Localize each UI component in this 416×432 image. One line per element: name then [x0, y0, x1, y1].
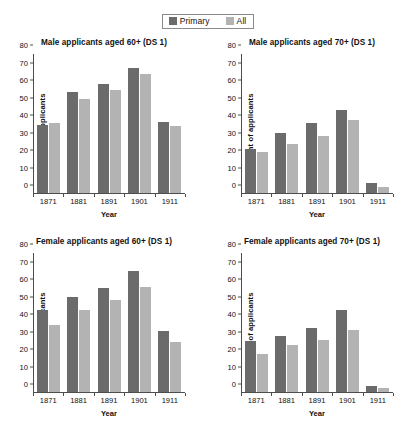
y-axis-tick-label: 40: [228, 310, 236, 319]
y-axis-tick: 30: [228, 128, 241, 137]
plot-area: 01020304050607080: [241, 54, 393, 194]
y-axis-tick-label: 20: [228, 146, 236, 155]
y-axis-tick-label: 40: [228, 111, 236, 120]
y-axis-tick-mark: [30, 314, 33, 315]
bar-all-1901: [140, 74, 151, 193]
x-axis-title: Year: [241, 409, 393, 418]
bars-layer: [241, 54, 393, 194]
y-axis-tick: 20: [228, 345, 241, 354]
bar-primary-1881: [275, 336, 286, 392]
y-axis-tick-mark: [30, 150, 33, 151]
y-axis-tick: 60: [20, 76, 33, 85]
x-axis-tick-label: 1871: [40, 396, 57, 405]
y-axis-tick: 60: [20, 275, 33, 284]
bar-all-1891: [110, 300, 121, 392]
y-axis-tick-mark: [30, 132, 33, 133]
y-axis-tick-label: 0: [232, 380, 236, 389]
bar-primary-1901: [128, 271, 139, 392]
bar-primary-1911: [366, 386, 377, 392]
chart-panel-female-60: Female applicants aged 60+ (DS 1) Per ce…: [0, 233, 208, 432]
bar-all-1871: [257, 152, 268, 193]
chart-panel-grid: Male applicants aged 60+ (DS 1) Per cent…: [0, 34, 416, 432]
bar-all-1901: [348, 330, 359, 392]
y-axis-tick-label: 70: [20, 58, 28, 67]
x-axis-tick-labels: 18711881189119011911: [33, 396, 185, 408]
y-axis-tick-label: 60: [20, 275, 28, 284]
bar-all-1911: [378, 187, 389, 193]
y-axis-tick-label: 0: [24, 181, 28, 190]
y-axis-tick-mark: [238, 384, 241, 385]
y-axis-tick-mark: [30, 97, 33, 98]
y-axis-tick: 0: [24, 181, 33, 190]
y-axis-tick-mark: [30, 384, 33, 385]
y-axis-tick: 50: [20, 292, 33, 301]
x-axis-tick-label: 1871: [248, 396, 265, 405]
y-axis-tick: 40: [20, 111, 33, 120]
y-axis-tick-mark: [30, 185, 33, 186]
bar-all-1871: [49, 123, 60, 193]
bar-primary-1891: [98, 84, 109, 193]
bar-primary-1881: [275, 133, 286, 193]
y-axis-tick: 0: [24, 380, 33, 389]
legend-box: Primary All: [162, 14, 255, 29]
bars-layer: [33, 54, 185, 194]
bar-all-1901: [140, 287, 151, 392]
y-axis-tick-label: 30: [20, 327, 28, 336]
bar-primary-1881: [67, 92, 78, 194]
x-axis-tick-label: 1891: [309, 197, 326, 206]
y-axis-tick: 70: [228, 58, 241, 67]
y-axis-tick-label: 30: [228, 128, 236, 137]
y-axis-tick-mark: [30, 167, 33, 168]
y-axis-tick-mark: [30, 296, 33, 297]
bar-primary-1901: [336, 310, 347, 392]
bar-all-1871: [257, 354, 268, 392]
bar-primary-1881: [67, 297, 78, 392]
y-axis-tick: 30: [228, 327, 241, 336]
chart-panel-male-60: Male applicants aged 60+ (DS 1) Per cent…: [0, 34, 208, 233]
y-axis-tick: 40: [20, 310, 33, 319]
y-axis-tick-label: 10: [20, 362, 28, 371]
legend-item-primary: Primary: [169, 17, 210, 26]
y-axis-tick-label: 30: [20, 128, 28, 137]
y-axis-tick-label: 30: [228, 327, 236, 336]
y-axis-tick-label: 80: [20, 41, 28, 50]
y-axis-tick: 20: [228, 146, 241, 155]
square-swatch-icon: [226, 17, 234, 25]
bar-primary-1871: [245, 149, 256, 193]
y-axis-tick-mark: [238, 132, 241, 133]
x-axis-tick-labels: 18711881189119011911: [241, 396, 393, 408]
bar-all-1881: [79, 99, 90, 193]
y-axis-tick: 0: [232, 380, 241, 389]
y-axis-tick-label: 60: [228, 275, 236, 284]
bar-all-1891: [318, 340, 329, 392]
y-axis-tick-label: 70: [228, 58, 236, 67]
bar-primary-1901: [336, 110, 347, 193]
x-axis-tick-label: 1911: [162, 396, 178, 405]
y-axis-tick-label: 70: [20, 257, 28, 266]
bar-all-1881: [287, 345, 298, 392]
x-axis-tick-label: 1911: [370, 197, 386, 206]
bar-primary-1911: [158, 331, 169, 392]
y-axis-tick-label: 60: [20, 76, 28, 85]
x-axis-title: Year: [241, 210, 393, 219]
y-axis-tick-mark: [238, 80, 241, 81]
y-axis-tick-label: 80: [20, 240, 28, 249]
y-axis-tick: 80: [228, 240, 241, 249]
y-axis-tick-label: 40: [20, 111, 28, 120]
legend-label-all: All: [237, 17, 247, 26]
plot-area: 01020304050607080: [33, 54, 185, 194]
bar-primary-1891: [306, 328, 317, 392]
y-axis-tick-label: 10: [228, 362, 236, 371]
y-axis-tick-mark: [30, 331, 33, 332]
x-axis-title: Year: [33, 210, 185, 219]
y-axis-tick-mark: [238, 296, 241, 297]
bar-primary-1891: [306, 123, 317, 193]
y-axis-tick-mark: [30, 244, 33, 245]
y-axis-tick-label: 50: [20, 93, 28, 102]
bar-all-1901: [348, 120, 359, 193]
bar-primary-1891: [98, 288, 109, 392]
x-axis-tick-mark: [393, 194, 394, 197]
x-axis-tick-labels: 18711881189119011911: [33, 197, 185, 209]
bar-all-1891: [318, 136, 329, 193]
y-axis-tick-mark: [30, 349, 33, 350]
